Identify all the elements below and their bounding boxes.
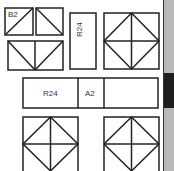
cell-label-a2: A2	[85, 89, 95, 98]
cell-label-r24-horizontal: R24	[43, 89, 58, 98]
strip-dark-band	[164, 73, 174, 108]
side-scroll-strip[interactable]	[163, 0, 174, 171]
cell-label-r24-vertical: R24	[75, 22, 84, 37]
cell-label-b2: B2	[8, 10, 18, 19]
grid-lines	[0, 0, 174, 171]
